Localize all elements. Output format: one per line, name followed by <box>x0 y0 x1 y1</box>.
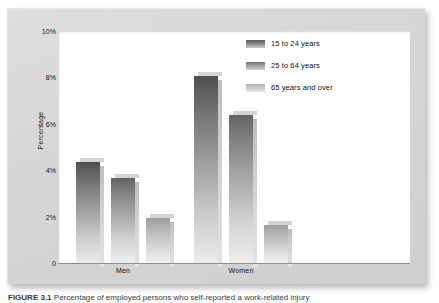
legend-label-65-and-over: 65 years and over <box>271 83 333 92</box>
figure-caption-text: Percentage of employed persons who self-… <box>54 293 310 302</box>
legend-swatch-icon <box>246 40 265 48</box>
legend-label-15-to-24: 15 to 24 years <box>271 39 320 48</box>
bar-side-face <box>135 182 139 268</box>
bar-front-face <box>194 76 218 263</box>
bar-front-face <box>111 178 135 264</box>
bar-front-face <box>264 225 288 263</box>
bar-side-face <box>253 119 257 268</box>
bar-front-face <box>146 218 170 263</box>
y-axis-title: Percentage <box>37 91 44 171</box>
bar-side-face <box>170 222 174 267</box>
legend: 15 to 24 years 25 to 64 years 65 years a… <box>246 35 396 101</box>
bar-men-25-to-64[interactable] <box>111 178 135 264</box>
bar-front-face <box>229 115 253 264</box>
legend-item-65-and-over[interactable]: 65 years and over <box>246 79 396 96</box>
y-tick-0: 0 <box>12 260 56 267</box>
y-tick-2: 2% <box>12 213 56 220</box>
figure-caption: FIGURE 3.1 Percentage of employed person… <box>8 292 433 303</box>
bar-women-25-to-64[interactable] <box>229 115 253 264</box>
figure-panel: 10% 8% 6% 4% 2% 0 Percentage <box>7 8 425 284</box>
x-category-women: Women <box>229 267 254 274</box>
legend-label-25-to-64: 25 to 64 years <box>271 61 320 70</box>
bar-men-65-and-over[interactable] <box>146 218 170 263</box>
legend-swatch-icon <box>246 84 265 92</box>
bar-side-face <box>100 166 104 267</box>
bar-front-face <box>76 162 100 263</box>
figure-caption-label: FIGURE 3.1 <box>8 293 52 302</box>
x-axis-line <box>58 263 410 264</box>
y-tick-8: 8% <box>12 74 56 81</box>
y-tick-10: 10% <box>12 28 56 35</box>
x-category-men: Men <box>116 267 130 274</box>
bar-men-15-to-24[interactable] <box>76 162 100 263</box>
bar-women-15-to-24[interactable] <box>194 76 218 263</box>
y-tick-4: 4% <box>12 167 56 174</box>
bar-women-65-and-over[interactable] <box>264 225 288 263</box>
legend-item-25-to-64[interactable]: 25 to 64 years <box>246 57 396 74</box>
bar-side-face <box>288 229 292 267</box>
y-axis-ticks: 10% 8% 6% 4% 2% 0 <box>8 9 56 285</box>
legend-item-15-to-24[interactable]: 15 to 24 years <box>246 35 396 52</box>
legend-swatch-icon <box>246 62 265 70</box>
bar-side-face <box>218 80 222 267</box>
y-tick-6: 6% <box>12 120 56 127</box>
